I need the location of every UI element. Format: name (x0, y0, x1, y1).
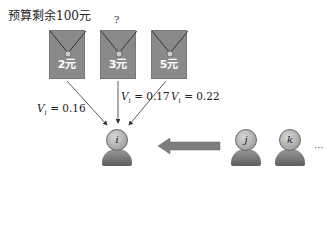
ellipsis: ··· (314, 142, 324, 153)
big-left-arrow (158, 138, 220, 154)
person-k: k (275, 129, 305, 167)
person-body-icon (102, 149, 132, 166)
person-j: j (231, 129, 261, 167)
value-label-5yuan: Vi = 0.22 (171, 90, 220, 105)
value-label-2yuan: Vi = 0.16 (37, 102, 86, 117)
person-head-icon: k (279, 129, 301, 151)
person-i: i (102, 129, 132, 167)
person-body-icon (275, 149, 305, 166)
person-head-icon: i (106, 129, 128, 151)
person-head-icon: j (235, 129, 257, 151)
value-label-3yuan: Vi = 0.17 (121, 90, 170, 105)
person-body-icon (231, 149, 261, 166)
